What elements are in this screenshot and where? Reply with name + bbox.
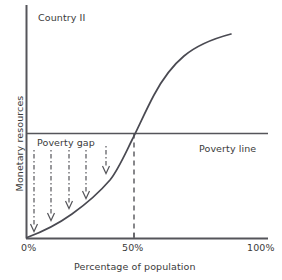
poverty-line-label: Poverty line (199, 143, 256, 154)
x-axis-title: Percentage of population (74, 261, 196, 272)
y-axis-title: Monetary resources (14, 89, 25, 199)
poverty-gap-arrow-2 (48, 150, 55, 221)
arrow-head (83, 191, 90, 199)
x-tick-label-100: 100% (247, 242, 275, 253)
chart-title: Country II (38, 12, 85, 23)
arrow-head (103, 166, 110, 174)
poverty-gap-arrow-1 (31, 150, 38, 232)
arrow-head (31, 224, 38, 232)
x-tick-label-0: 0% (21, 242, 36, 253)
poverty-gap-label: Poverty gap (37, 137, 95, 148)
x-tick-label-50: 50% (122, 242, 143, 253)
poverty-gap-arrow-4 (83, 150, 90, 199)
resource-curve (27, 34, 231, 238)
chart-container: Country II Poverty gap Poverty line 0% 5… (0, 0, 282, 280)
poverty-gap-arrow-3 (66, 150, 73, 209)
poverty-gap-arrow-5 (103, 146, 110, 174)
arrow-head (48, 213, 55, 221)
poverty-gap-arrows (31, 146, 110, 232)
